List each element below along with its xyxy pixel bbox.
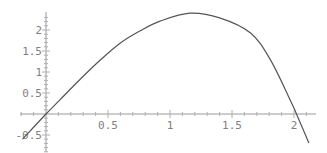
y-tick-label: 0.5: [22, 87, 42, 100]
line-chart: 0.511.52 -0.50.511.52: [0, 0, 327, 153]
y-tick-label: 1.5: [22, 45, 42, 58]
y-tick-label: -0.5: [16, 129, 43, 142]
x-tick-label: 1: [167, 119, 174, 132]
y-axis-tick-labels: -0.50.511.52: [16, 24, 43, 142]
y-tick-label: 1: [35, 66, 42, 79]
x-tick-label: 1.5: [222, 119, 242, 132]
x-tick-label: 2: [291, 119, 298, 132]
data-series: [22, 13, 308, 143]
series-line: [22, 13, 308, 143]
x-axis-tick-labels: 0.511.52: [98, 119, 297, 132]
y-tick-label: 2: [35, 24, 42, 37]
x-tick-label: 0.5: [98, 119, 118, 132]
